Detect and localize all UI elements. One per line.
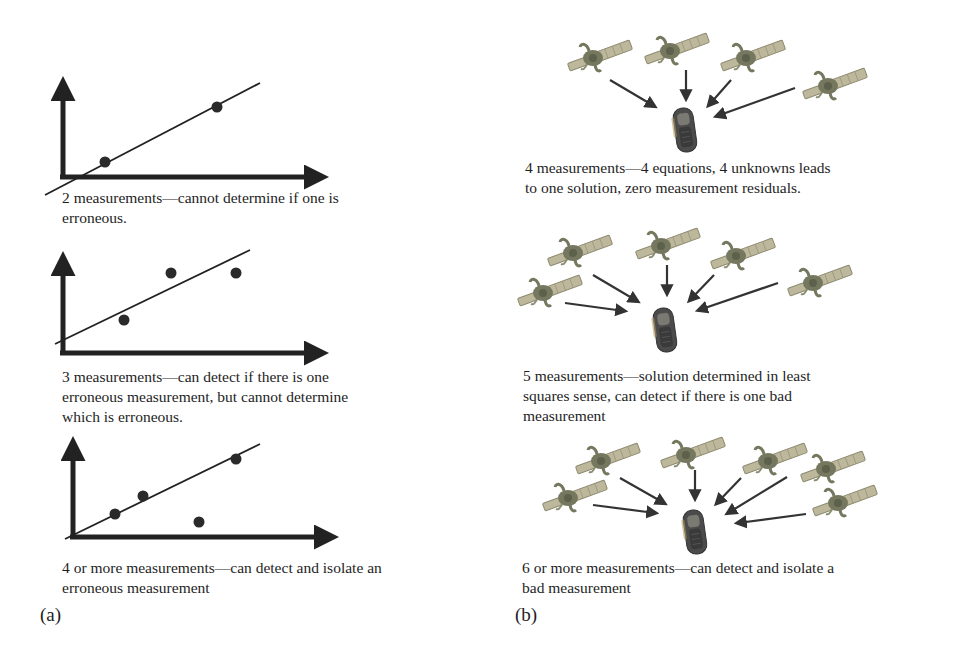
signal-arrow-icon: [717, 478, 741, 503]
signal-arrow-icon: [699, 283, 778, 310]
plot-4-or-more-measurements: [65, 444, 325, 539]
satellite-icon: [547, 235, 612, 267]
signal-arrow-icon: [690, 275, 714, 300]
satellite-icon: [635, 228, 700, 260]
panel-label-a: (a): [40, 604, 61, 626]
caption-scene-6-or-more-measurements: 6 or more measurements—can detect and is…: [522, 558, 834, 598]
panel-label-b: (b): [515, 604, 537, 626]
caption-line: 3 measurements—can detect if there is on…: [62, 367, 348, 387]
plot-2-measurements: [45, 83, 315, 195]
signal-arrow-icon: [709, 80, 731, 105]
caption-line: bad measurement: [522, 578, 834, 598]
data-point: [231, 268, 242, 279]
caption-line: which is erroneous.: [62, 407, 348, 427]
caption-plot-4-or-more-measurements: 4 or more measurements—can detect and is…: [62, 558, 382, 598]
caption-scene-5-measurements: 5 measurements—solution determined in le…: [523, 366, 811, 426]
gps-receiver-icon: [680, 509, 708, 556]
satellite-icon: [720, 40, 785, 72]
signal-arrow-icon: [593, 275, 637, 301]
outlier-point: [194, 517, 205, 528]
scene-6-or-more-measurements: [542, 437, 877, 555]
satellite-icon: [644, 33, 709, 65]
satellite-icon: [800, 451, 865, 483]
caption-line: 4 measurements—4 equations, 4 unknowns l…: [525, 158, 831, 178]
satellite-icon: [542, 480, 607, 512]
caption-scene-4-measurements: 4 measurements—4 equations, 4 unknowns l…: [525, 158, 831, 198]
data-point: [110, 509, 121, 520]
data-point: [231, 454, 242, 465]
signal-arrow-icon: [738, 514, 806, 523]
caption-plot-3-measurements: 3 measurements—can detect if there is on…: [62, 367, 348, 427]
data-points: [119, 268, 242, 326]
satellite-icon: [802, 68, 867, 100]
caption-line: erroneous measurement: [62, 578, 382, 598]
signal-arrow-icon: [620, 478, 664, 503]
data-point: [119, 315, 130, 326]
figure-canvas: [0, 0, 962, 652]
caption-line: erroneous measurement, but cannot determ…: [62, 387, 348, 407]
caption-line: 4 or more measurements—can detect and is…: [62, 558, 382, 578]
caption-line: 6 or more measurements—can detect and is…: [522, 558, 834, 578]
caption-line: squares sense, can detect if there is on…: [523, 386, 811, 406]
data-points: [110, 454, 242, 528]
plot-3-measurements: [55, 250, 315, 353]
signal-arrow-icon: [593, 505, 655, 513]
caption-plot-2-measurements: 2 measurements—cannot determine if one i…: [62, 188, 339, 228]
caption-line: erroneous.: [62, 208, 339, 228]
signal-arrow-icon: [717, 88, 795, 116]
satellite-icon: [812, 485, 877, 517]
gps-receiver-icon: [650, 307, 678, 354]
satellite-icon: [742, 443, 807, 475]
caption-line: measurement: [523, 406, 811, 426]
scene-5-measurements: [517, 228, 852, 353]
satellite-icon: [660, 437, 725, 469]
caption-line: 5 measurements—solution determined in le…: [523, 366, 811, 386]
satellite-icon: [710, 238, 775, 270]
gps-receiver-icon: [670, 107, 698, 154]
caption-line: 2 measurements—cannot determine if one i…: [62, 188, 339, 208]
data-point: [138, 491, 149, 502]
signal-arrow-icon: [565, 303, 624, 311]
data-point: [166, 268, 177, 279]
scene-4-measurements: [567, 33, 867, 153]
satellite-icon: [575, 443, 640, 475]
satellite-icon: [517, 275, 582, 307]
data-point: [100, 157, 111, 168]
fit-line: [55, 250, 250, 344]
caption-line: to one solution, zero measurement residu…: [525, 178, 831, 198]
data-point: [212, 102, 223, 113]
signal-arrow-icon: [610, 80, 654, 106]
satellite-icon: [567, 40, 632, 72]
satellite-icon: [787, 265, 852, 297]
